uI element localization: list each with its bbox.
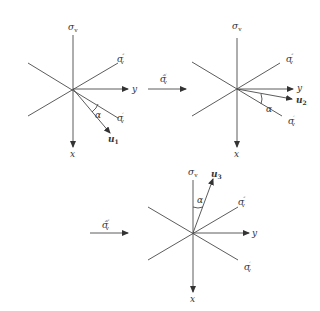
panel-2: σv σ″v σ′v x y u2 α [192,21,307,159]
symmetry-operation-diagram: σv σ″v σ′v x y u1 α σ̂′v σv σ″v σ′v x y … [0,0,320,311]
vector-u1-label: u1 [108,134,119,145]
vector-u3 [193,179,213,233]
angle-arc [193,207,203,208]
x-axis-label: x [70,149,75,159]
panel-3: σv σ″v σ′v x y u3 α [148,167,258,304]
sigma-v-prime-label: σ′v [244,260,252,273]
transition-2: σ̂″v [90,218,128,233]
sigma-v-double-prime-label: σ″v [117,52,125,65]
sigma-v-label: σv [232,21,242,32]
y-axis-label: y [296,83,303,93]
angle-alpha-label: α [197,195,203,205]
x-axis-label: x [190,294,195,304]
operator-sigma-v-double-prime-label: σ̂″v [102,218,110,231]
transition-1: σ̂′v [148,72,186,89]
angle-arc [261,94,262,104]
sigma-v-label: σv [188,167,198,178]
sigma-v-double-prime-label: σ″v [238,195,246,208]
y-axis-label: y [251,228,258,238]
operator-sigma-v-prime-label: σ̂′v [160,72,168,85]
sigma-v-prime-label: σ′v [288,114,296,127]
vector-u3-label: u3 [211,169,222,180]
sigma-v-double-prime-label: σ″v [286,52,294,65]
y-axis-label: y [131,84,138,94]
angle-alpha-label: α [266,104,272,114]
sigma-v-prime-label: σ′v [117,111,125,124]
x-axis-label: x [234,149,239,159]
vector-u2-label: u2 [296,95,307,106]
angle-alpha-label: α [95,110,101,120]
vector-u1 [73,89,110,133]
panel-1: σv σ″v σ′v x y u1 α [28,22,138,159]
sigma-v-label: σv [68,22,78,33]
